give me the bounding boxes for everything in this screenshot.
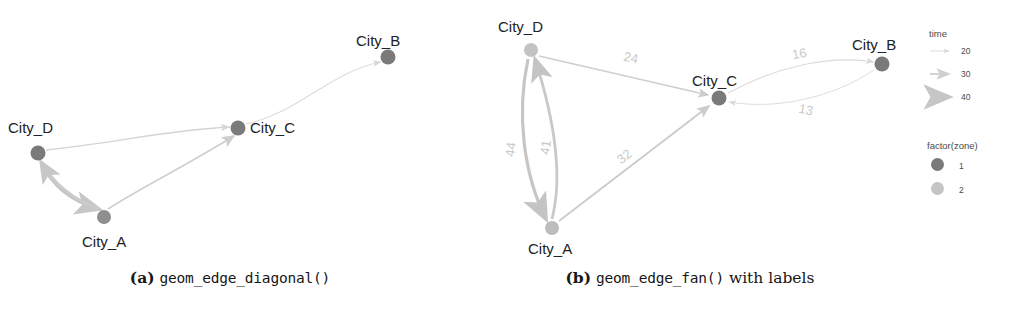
- legend-title-time: time: [929, 28, 947, 39]
- edge-label-13: 13: [797, 101, 814, 119]
- caption-a-code: geom_edge_diagonal(): [160, 270, 331, 286]
- node-city_b: [875, 57, 890, 72]
- figure-container: City_B City_C City_D City_A: [0, 0, 1018, 327]
- node-city_c: [712, 91, 727, 106]
- node-label-city_b: City_B: [356, 32, 400, 49]
- caption-b-suffix: with labels: [729, 269, 815, 287]
- edge-city_a-city_d: [41, 162, 99, 209]
- legend-key-label-zone-1: 1: [959, 161, 964, 171]
- legend-key-dot-zone-2: [931, 182, 944, 195]
- caption-panel-a: (a) geom_edge_diagonal(): [0, 268, 460, 304]
- legend-key-dot-zone-1: [931, 158, 944, 171]
- edge-city_a-city_d: [535, 59, 557, 219]
- edge-label-44: 44: [502, 141, 519, 157]
- node-label-city_b: City_B: [852, 36, 896, 53]
- caption-b-prefix: (b): [566, 268, 592, 287]
- edge-city_b-city_c: [729, 70, 874, 104]
- edge-city_d-city_a: [41, 162, 99, 209]
- panel-a-graph: City_B City_C City_D City_A: [0, 0, 460, 265]
- node-city_d: [524, 43, 538, 57]
- edge-city_a-city_c: [559, 106, 709, 221]
- node-city_a: [97, 210, 111, 224]
- legend-key-label-time-40: 40: [961, 92, 970, 102]
- node-city_d: [31, 146, 46, 161]
- edge-city_d-city_c: [46, 127, 230, 150]
- caption-panel-b: (b) geom_edge_fan() with labels: [460, 268, 920, 304]
- edge-city_a-city_c: [108, 136, 234, 209]
- node-label-city_c: City_C: [692, 72, 737, 89]
- panel-a-edges: [41, 62, 381, 209]
- edge-label-41: 41: [537, 139, 554, 155]
- panel-b-svg: 24 16 13 32 44 41: [460, 0, 920, 265]
- node-city_c: [231, 121, 246, 136]
- node-label-city_d: City_D: [498, 18, 543, 35]
- edge-label-24: 24: [622, 49, 639, 67]
- legend-container: time 20 30 40 factor(zone) 1: [925, 28, 1015, 258]
- legend-key-label-time-30: 30: [961, 69, 970, 79]
- edge-label-16: 16: [791, 45, 808, 62]
- node-label-city_a: City_A: [82, 233, 126, 250]
- node-label-city_d: City_D: [8, 119, 53, 136]
- legend-key-label-zone-2: 2: [959, 185, 964, 195]
- node-city_a: [545, 221, 559, 235]
- legend-key-label-time-20: 20: [961, 46, 970, 56]
- panel-a-nodes: [31, 50, 396, 225]
- caption-b-code: geom_edge_fan(): [596, 270, 724, 286]
- node-city_b: [381, 50, 396, 65]
- edge-label-32: 32: [614, 146, 635, 167]
- node-label-city_c: City_C: [250, 119, 295, 136]
- node-label-city_a: City_A: [528, 240, 572, 257]
- panel-b-graph: 24 16 13 32 44 41 City_D City_B City_C C…: [460, 0, 920, 265]
- edge-city_c-city_b: [246, 62, 381, 124]
- edge-city_c-city_b: [728, 60, 874, 93]
- legend-title-zone: factor(zone): [927, 140, 978, 151]
- caption-a-prefix: (a): [130, 268, 155, 287]
